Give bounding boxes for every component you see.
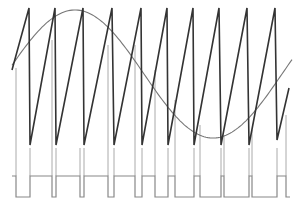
pwm-diagram [0, 0, 297, 202]
